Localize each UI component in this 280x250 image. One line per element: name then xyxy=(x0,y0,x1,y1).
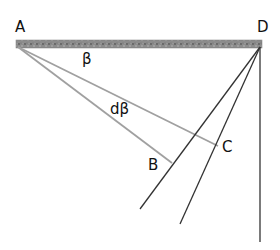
label-beta: β xyxy=(82,52,92,67)
ray-A-to-B xyxy=(18,47,172,163)
label-A: A xyxy=(15,20,25,35)
label-D: D xyxy=(257,20,269,35)
label-dbeta: dβ xyxy=(110,102,129,117)
ray-D-through-C xyxy=(180,47,260,224)
label-C: C xyxy=(222,140,232,155)
ray-D-through-B xyxy=(140,47,260,209)
diagram-canvas xyxy=(0,0,280,250)
bar-AD xyxy=(16,40,262,48)
label-B: B xyxy=(148,158,158,173)
ray-A-to-C xyxy=(18,47,218,146)
